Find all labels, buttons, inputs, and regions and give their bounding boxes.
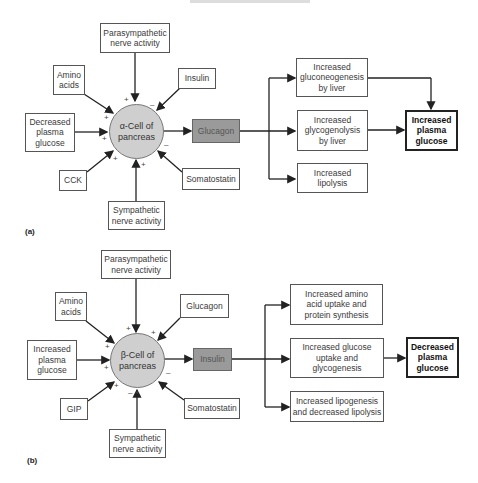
effect-glucose-uptake: Increased glucose uptake and glycogenesi… xyxy=(290,338,384,378)
sign-parasympathetic: + xyxy=(126,325,131,333)
input-somatostatin: Somatostatin xyxy=(184,398,240,419)
input-parasympathetic: Parasympathetic nerve activity xyxy=(100,23,170,53)
input-plasma-glucose: Increased plasma glucose xyxy=(27,340,77,380)
sign-parasympathetic: + xyxy=(124,96,129,104)
beta-cell: β-Cell of pancreas xyxy=(110,333,165,388)
sign-amino-acids: + xyxy=(104,114,109,122)
input-sympathetic: Sympathetic nerve activity xyxy=(109,429,166,458)
sign-amino-acids: + xyxy=(105,343,110,351)
sign-sympathetic: – + xyxy=(128,389,139,397)
input-insulin: Insulin xyxy=(178,68,216,89)
sign-gip: + xyxy=(114,382,119,390)
sign-insulin: – xyxy=(150,101,154,109)
sign-cck: + xyxy=(113,155,118,163)
sign-glucagon: + xyxy=(151,329,156,337)
panel-label-b: (b) xyxy=(27,456,37,465)
hormone-insulin: Insulin xyxy=(193,348,232,371)
sign-plasma-glucose: + xyxy=(104,364,109,372)
input-parasympathetic: Parasympathetic nerve activity xyxy=(101,250,171,279)
input-cck: CCK xyxy=(59,170,87,191)
hormone-glucagon: Glucagon xyxy=(192,119,240,143)
effect-lipogenesis: Increased lipogenesis and decreased lipo… xyxy=(290,391,384,422)
input-gip: GIP xyxy=(60,398,88,420)
outcome-decreased-glucose: Decreased plasma glucose xyxy=(406,337,459,378)
input-glucagon: Glucagon xyxy=(180,294,229,318)
outcome-increased-glucose: Increased plasma glucose xyxy=(405,110,458,151)
sign-somatostatin: – xyxy=(166,369,170,377)
input-amino-acids: Amino acids xyxy=(53,65,85,95)
sign-sympathetic: + xyxy=(141,161,146,169)
effect-lipolysis: Increased lipolysis xyxy=(297,163,368,193)
alpha-cell: α-Cell of pancreas xyxy=(109,104,164,159)
input-sympathetic: Sympathetic nerve activity xyxy=(108,201,165,230)
sign-plasma-glucose: + xyxy=(102,135,107,143)
effect-amino-acid-uptake: Increased amino acid uptake and protein … xyxy=(290,284,383,325)
panel-label-a: (a) xyxy=(25,227,35,236)
sign-somatostatin: – xyxy=(164,141,168,149)
effect-gluconeogenesis: Increased gluconeogenesis by liver xyxy=(296,58,368,97)
input-somatostatin: Somatostatin xyxy=(182,168,240,190)
effect-glycogenolysis: Increased glycogenolysis by liver xyxy=(297,110,368,151)
input-amino-acids: Amino acids xyxy=(55,292,87,321)
input-plasma-glucose: Decreased plasma glucose xyxy=(25,113,75,152)
